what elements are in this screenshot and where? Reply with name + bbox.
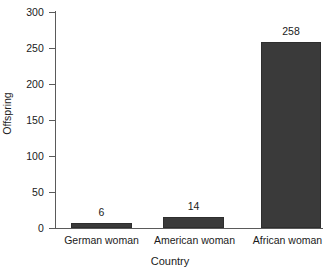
y-tick-mark-0 (49, 228, 55, 229)
y-tick-mark-150 (49, 120, 55, 121)
y-tick-mark-300 (49, 12, 55, 13)
bar-value-african-woman: 258 (261, 26, 321, 37)
bar-value-german-woman: 6 (71, 207, 132, 218)
y-tick-label-300: 300 (26, 7, 44, 18)
y-tick-label-0: 0 (38, 223, 44, 234)
bar-german-woman (71, 223, 132, 228)
y-axis-title: Offspring (2, 84, 13, 144)
y-tick-mark-100 (49, 156, 55, 157)
y-tick-mark-200 (49, 84, 55, 85)
y-tick-mark-250 (49, 48, 55, 49)
y-tick-label-250: 250 (26, 43, 44, 54)
x-axis-title-text: Country (151, 255, 190, 267)
bar-american-woman (163, 217, 224, 228)
y-tick-mark-50 (49, 192, 55, 193)
bar-chart: Offspring 300 250 200 150 100 50 0 6 14 … (0, 0, 336, 277)
x-axis-title: Country (0, 255, 336, 267)
y-tick-label-200: 200 (26, 79, 44, 90)
x-tick-label-german-woman: German woman (56, 234, 147, 246)
bar-african-woman (261, 42, 321, 228)
y-axis-line (55, 11, 56, 229)
x-tick-label-american-woman: American woman (147, 234, 242, 246)
bar-value-american-woman: 14 (163, 201, 224, 212)
y-tick-label-50: 50 (32, 187, 44, 198)
x-tick-label-african-woman: African woman (243, 234, 332, 246)
y-tick-label-100: 100 (26, 151, 44, 162)
x-axis-line (55, 228, 323, 229)
y-tick-label-150: 150 (26, 115, 44, 126)
